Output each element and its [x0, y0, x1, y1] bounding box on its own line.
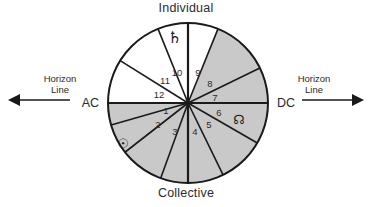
ascendant-marker: AC — [82, 96, 99, 110]
horizon-line-left-text-1: Horizon — [8, 74, 112, 85]
house-number-12: 12 — [154, 89, 165, 100]
descendant-marker: DC — [277, 96, 295, 110]
horizon-line-right-text-1: Horizon — [262, 74, 366, 85]
astrology-house-wheel-figure: 123456789101112 ♄☊☉ AC DC — [0, 0, 372, 207]
house-number-2: 2 — [155, 119, 160, 130]
house-number-8: 8 — [207, 78, 212, 89]
page-title-individual: Individual — [0, 1, 372, 15]
saturn-glyph: ♄ — [168, 28, 182, 47]
house-number-9: 9 — [195, 67, 200, 78]
ascendant-label: AC — [82, 96, 99, 110]
horizon-line-label-right: Horizon Line — [262, 74, 366, 95]
house-number-11: 11 — [160, 75, 170, 86]
sun-glyph: ☉ — [117, 136, 129, 151]
house-number-3: 3 — [172, 126, 177, 137]
horizon-line-left-text-2: Line — [8, 85, 112, 96]
house-number-1: 1 — [163, 105, 168, 116]
house-number-10: 10 — [172, 67, 183, 78]
house-number-4: 4 — [192, 126, 197, 137]
descendant-label: DC — [277, 96, 295, 110]
left-arrow-icon — [8, 94, 70, 106]
house-number-6: 6 — [216, 107, 221, 118]
page-title-collective: Collective — [0, 186, 372, 200]
house-number-5: 5 — [206, 119, 211, 130]
horizon-line-label-left: Horizon Line — [8, 74, 112, 95]
north-node-glyph: ☊ — [233, 112, 245, 127]
horizon-line-right-text-2: Line — [262, 85, 366, 96]
right-arrow-icon — [302, 94, 364, 106]
house-number-7: 7 — [212, 92, 217, 103]
